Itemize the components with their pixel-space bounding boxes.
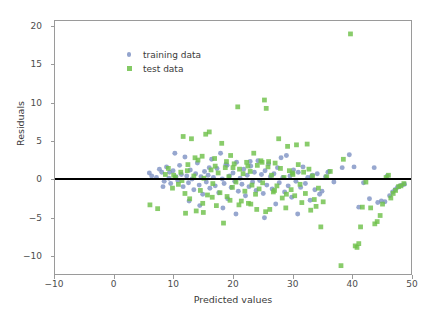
x-tick-mark xyxy=(352,275,353,279)
y-tick-label: 10 xyxy=(31,98,48,107)
x-tick-mark xyxy=(293,275,294,279)
x-axis-tick-labels: −1001020304050 xyxy=(54,280,412,294)
x-tick-label: 30 xyxy=(287,280,298,289)
x-tick-label: 20 xyxy=(227,280,238,289)
y-tick-label: 5 xyxy=(36,136,48,145)
y-tick-label: 20 xyxy=(31,22,48,31)
y-tick-label: 15 xyxy=(31,60,48,69)
x-tick-mark xyxy=(233,275,234,279)
plot-area: training data test data xyxy=(54,20,412,275)
x-tick-label: −10 xyxy=(45,280,64,289)
test-marker-icon xyxy=(122,66,136,71)
training-marker-icon xyxy=(122,52,136,57)
x-tick-mark xyxy=(114,275,115,279)
x-tick-label: 0 xyxy=(111,280,117,289)
x-tick-label: 50 xyxy=(406,280,417,289)
legend: training data test data xyxy=(117,45,208,78)
x-tick-mark xyxy=(173,275,174,279)
scatter-canvas xyxy=(55,21,411,274)
legend-item-training[interactable]: training data xyxy=(122,49,201,60)
y-tick-label: 0 xyxy=(36,175,48,184)
scatter-svg xyxy=(55,21,411,274)
legend-label-test: test data xyxy=(143,64,183,74)
y-tick-label: −5 xyxy=(29,213,48,222)
legend-label-training: training data xyxy=(143,50,201,60)
x-tick-label: 10 xyxy=(168,280,179,289)
y-axis-title: Residuals xyxy=(15,64,26,184)
x-tick-mark xyxy=(412,275,413,279)
x-tick-label: 40 xyxy=(347,280,358,289)
x-axis-title: Predicted values xyxy=(54,294,412,305)
legend-item-test[interactable]: test data xyxy=(122,63,201,74)
figure: −10−505101520 −1001020304050 training da… xyxy=(0,0,438,319)
x-tick-mark xyxy=(54,275,55,279)
y-tick-label: −10 xyxy=(23,251,48,260)
